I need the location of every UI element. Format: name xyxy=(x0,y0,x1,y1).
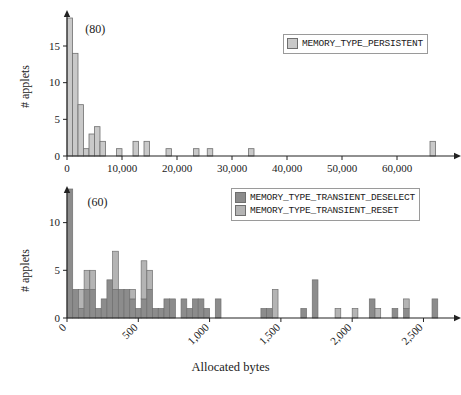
bar-reset xyxy=(141,261,147,299)
bar-reset xyxy=(272,289,278,318)
persistent-histogram-plot: 051015010,00020,00030,00040,00050,00060,… xyxy=(0,0,461,186)
bar-reset xyxy=(375,308,381,318)
bar-deselect xyxy=(404,308,410,318)
y-tick-label: 15 xyxy=(49,40,61,52)
bar-reset xyxy=(335,308,341,318)
bar-deselect xyxy=(118,289,124,318)
bar-deselect xyxy=(170,299,176,318)
bar-deselect xyxy=(187,308,193,318)
x-tick-label: 1,000 xyxy=(185,321,211,347)
x-tick-label: 0 xyxy=(56,321,69,334)
bar-deselect xyxy=(158,308,164,318)
bar-reset xyxy=(113,251,119,289)
bar-deselect xyxy=(101,299,107,318)
x-axis-title: Allocated bytes xyxy=(0,360,461,375)
bar-deselect xyxy=(124,289,130,318)
bar-reset xyxy=(130,289,136,299)
overflow-annotation: (80) xyxy=(85,22,105,36)
y-tick-label: 5 xyxy=(55,264,61,276)
legend-label-persistent: MEMORY_TYPE_PERSISTENT xyxy=(302,38,423,50)
bar-deselect xyxy=(432,299,438,318)
bar-deselect xyxy=(369,299,375,318)
bar xyxy=(89,134,95,156)
x-tick-label: 30,000 xyxy=(217,162,248,174)
bar-deselect xyxy=(153,308,159,318)
x-tick-label: 2,500 xyxy=(399,321,425,347)
bar-deselect xyxy=(392,308,398,318)
legend-swatch-transient-deselect xyxy=(235,192,246,203)
legend-label-transient-deselect: MEMORY_TYPE_TRANSIENT_DESELECT xyxy=(250,192,415,204)
bar-deselect xyxy=(73,289,79,318)
bar-reset xyxy=(147,270,153,289)
overflow-annotation: (60) xyxy=(88,195,108,209)
legend-item-transient-deselect: MEMORY_TYPE_TRANSIENT_DESELECT xyxy=(235,191,415,204)
bar-deselect xyxy=(312,280,318,318)
bar-deselect xyxy=(267,308,273,318)
x-tick-label: 50,000 xyxy=(327,162,358,174)
y-axis-label-top: # applets xyxy=(18,65,33,108)
x-tick-label: 60,000 xyxy=(382,162,413,174)
bar-deselect xyxy=(141,299,147,318)
bar-deselect xyxy=(78,308,84,318)
bar xyxy=(73,53,79,156)
legend-item-persistent: MEMORY_TYPE_PERSISTENT xyxy=(287,37,423,50)
bar-deselect xyxy=(84,289,90,318)
legend-swatch-persistent xyxy=(287,38,298,49)
legend-bottom: MEMORY_TYPE_TRANSIENT_DESELECT MEMORY_TY… xyxy=(231,188,420,221)
x-tick-label: 20,000 xyxy=(162,162,193,174)
bar xyxy=(194,149,200,156)
bar-deselect xyxy=(301,308,307,318)
x-tick-label: 0 xyxy=(64,162,70,174)
legend-item-transient-reset: MEMORY_TYPE_TRANSIENT_RESET xyxy=(235,204,415,217)
bar-deselect xyxy=(135,308,141,318)
bar-deselect xyxy=(107,280,113,318)
bar xyxy=(166,149,172,156)
bar xyxy=(117,149,123,156)
bar xyxy=(144,141,150,156)
bar-reset xyxy=(404,299,410,309)
panel-persistent: 051015010,00020,00030,00040,00050,00060,… xyxy=(0,0,461,186)
bar-reset xyxy=(84,270,90,289)
bar-deselect xyxy=(164,299,170,318)
bar-deselect xyxy=(67,189,73,318)
bar-deselect xyxy=(147,289,153,318)
bar-deselect xyxy=(113,289,119,318)
x-axis-arrow xyxy=(454,153,461,159)
bar-deselect xyxy=(261,308,267,318)
y-tick-label: 5 xyxy=(55,113,61,125)
bar xyxy=(430,141,436,156)
x-tick-label: 2,000 xyxy=(328,321,354,347)
bar-reset xyxy=(352,308,358,318)
y-axis-label-bottom: # applets xyxy=(18,249,33,292)
bar-deselect xyxy=(130,299,136,318)
legend-swatch-transient-reset xyxy=(235,205,246,216)
bar xyxy=(249,149,255,156)
legend-label-transient-reset: MEMORY_TYPE_TRANSIENT_RESET xyxy=(250,205,399,217)
bar xyxy=(78,105,84,156)
y-tick-label: 0 xyxy=(55,150,61,162)
bar xyxy=(67,18,73,156)
bar xyxy=(207,149,213,156)
legend-top: MEMORY_TYPE_PERSISTENT xyxy=(283,34,428,54)
bar-reset xyxy=(90,270,96,289)
x-tick-label: 40,000 xyxy=(272,162,303,174)
bar xyxy=(84,149,90,156)
bar xyxy=(100,141,106,156)
y-tick-label: 10 xyxy=(49,216,61,228)
bar xyxy=(95,127,101,156)
x-tick-label: 500 xyxy=(120,321,141,342)
y-tick-label: 10 xyxy=(49,76,61,88)
figure-allocated-bytes-histograms: 051015010,00020,00030,00040,00050,00060,… xyxy=(0,0,461,395)
y-axis-arrow xyxy=(64,10,70,17)
x-tick-label: 10,000 xyxy=(107,162,138,174)
x-axis-arrow xyxy=(454,315,461,321)
bar xyxy=(133,141,139,156)
bar-deselect xyxy=(198,299,204,318)
bar-deselect xyxy=(96,308,102,318)
bar-deselect xyxy=(204,308,210,318)
x-tick-label: 1,500 xyxy=(256,321,282,347)
bar-deselect xyxy=(192,299,198,318)
bar-deselect xyxy=(90,289,96,318)
bar-reset xyxy=(78,289,84,308)
bar-deselect xyxy=(215,299,221,318)
